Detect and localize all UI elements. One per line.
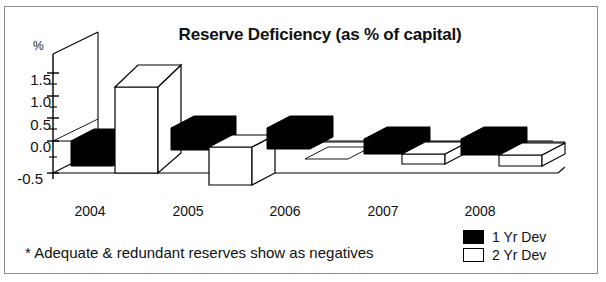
legend-label: 1 Yr Dev xyxy=(492,229,546,245)
bar-2006-2yr-dev xyxy=(305,147,371,159)
chart-legend: 1 Yr Dev 2 Yr Dev xyxy=(463,228,583,264)
legend-item-2yr-dev[interactable]: 2 Yr Dev xyxy=(463,246,583,263)
bar-2004-2yr-dev xyxy=(115,65,181,173)
bar-2005-2yr-dev xyxy=(209,135,275,185)
legend-swatch-white-icon xyxy=(463,248,484,262)
chart-frame: Reserve Deficiency (as % of capital) % 1… xyxy=(4,6,598,274)
bar-2006-1yr-dev xyxy=(267,116,333,149)
legend-swatch-black-icon xyxy=(463,230,484,244)
chart-footnote: * Adequate & redundant reserves show as … xyxy=(25,244,374,261)
chart-plot-area xyxy=(5,7,599,217)
legend-label: 2 Yr Dev xyxy=(492,247,546,263)
legend-item-1yr-dev[interactable]: 1 Yr Dev xyxy=(463,228,583,245)
chart-page: Reserve Deficiency (as % of capital) % 1… xyxy=(0,0,606,282)
